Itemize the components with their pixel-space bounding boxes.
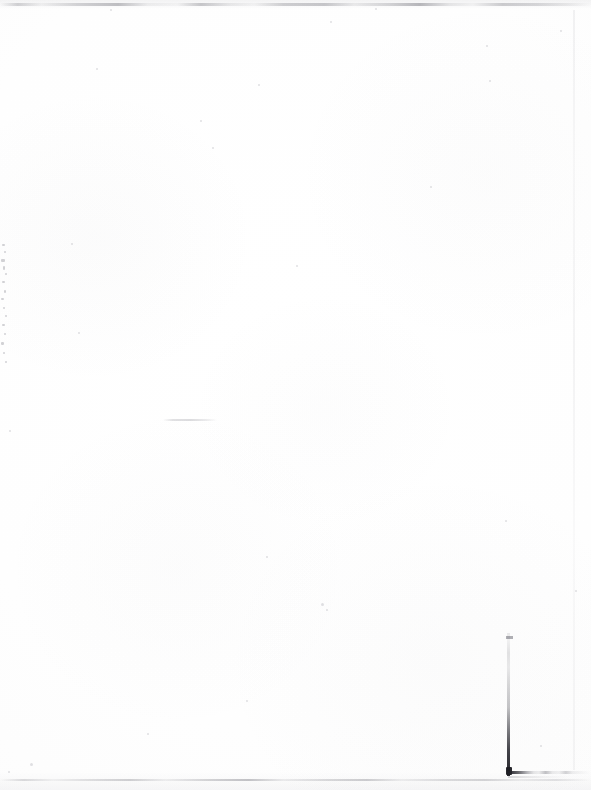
scanned-page xyxy=(0,0,591,790)
paper-background xyxy=(0,0,591,790)
